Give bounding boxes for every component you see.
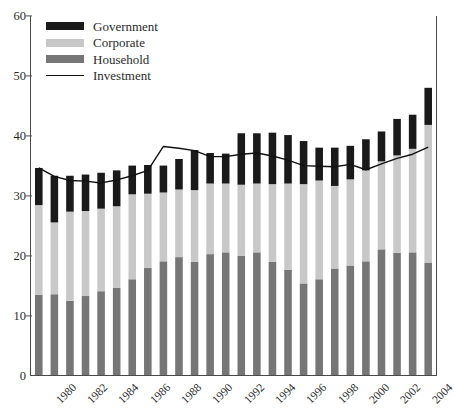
legend-label: Investment xyxy=(93,69,151,82)
x-tick-label-1996: 1996 xyxy=(304,381,329,406)
x-tick-label-1986: 1986 xyxy=(147,381,172,406)
y-tick-label-40: 40 xyxy=(0,129,26,144)
chart-legend: GovernmentCorporateHouseholdInvestment xyxy=(46,18,158,84)
legend-swatch-government-icon xyxy=(46,22,84,30)
x-tick-label-2004: 2004 xyxy=(429,381,454,406)
y-tick-label-0: 0 xyxy=(0,369,26,384)
legend-item-household: Household xyxy=(46,51,158,68)
x-tick-label-1988: 1988 xyxy=(179,381,204,406)
y-tick-label-20: 20 xyxy=(0,249,26,264)
legend-label: Household xyxy=(93,53,149,66)
legend-swatch-household-icon xyxy=(46,55,84,63)
legend-item-corporate: Corporate xyxy=(46,35,158,52)
x-tick-label-1994: 1994 xyxy=(273,381,298,406)
y-tick-label-30: 30 xyxy=(0,189,26,204)
x-tick-label-1982: 1982 xyxy=(85,381,110,406)
legend-item-government: Government xyxy=(46,18,158,35)
x-tick-label-2000: 2000 xyxy=(367,381,392,406)
x-tick-label-1998: 1998 xyxy=(335,381,360,406)
x-tick-label-1990: 1990 xyxy=(210,381,235,406)
x-tick-label-1992: 1992 xyxy=(241,381,266,406)
legend-item-investment: Investment xyxy=(46,68,158,85)
legend-label: Government xyxy=(93,20,158,33)
legend-swatch-corporate-icon xyxy=(46,39,84,47)
x-tick-label-2002: 2002 xyxy=(398,381,423,406)
x-tick-label-1980: 1980 xyxy=(54,381,79,406)
x-tick-label-1984: 1984 xyxy=(116,381,141,406)
y-tick-label-50: 50 xyxy=(0,69,26,84)
investment-line xyxy=(39,146,428,182)
legend-label: Corporate xyxy=(93,36,145,49)
legend-swatch-investment-icon xyxy=(46,75,84,76)
y-tick-label-60: 60 xyxy=(0,9,26,24)
y-tick-label-10: 10 xyxy=(0,309,26,324)
